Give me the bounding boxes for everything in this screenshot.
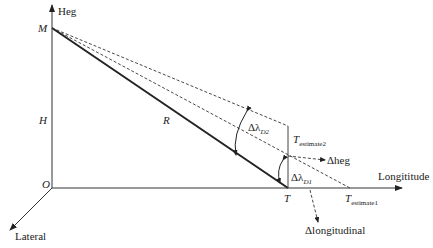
t-estimate1-label: Testimate1 bbox=[345, 192, 378, 207]
lateral-axis-label: Lateral bbox=[15, 230, 46, 242]
vertical-axis-label: Heg bbox=[58, 5, 77, 17]
angle-arc-d2 bbox=[235, 111, 247, 155]
point-M-label: M bbox=[37, 22, 48, 34]
point-H-label: H bbox=[38, 114, 48, 126]
t-estimate2-label: Testimate2 bbox=[293, 133, 326, 148]
angle-d2-label: ΔλD2 bbox=[248, 121, 269, 136]
line-R bbox=[52, 28, 288, 188]
angle-d1-label: ΔλD1 bbox=[291, 171, 312, 186]
angle-arc-d1 bbox=[279, 160, 283, 183]
segment-R-label: R bbox=[162, 114, 170, 126]
dashed-line-estimate2 bbox=[52, 28, 288, 126]
delta-heg-arrow bbox=[288, 156, 325, 160]
horizontal-axis-label: Longititude bbox=[378, 170, 429, 182]
lateral-axis bbox=[10, 188, 52, 230]
delta-heg-label: Δheg bbox=[327, 154, 350, 166]
point-T-label: T bbox=[284, 192, 291, 204]
dashed-line-heg bbox=[52, 28, 350, 188]
delta-longitudinal-arrow bbox=[310, 190, 318, 222]
geometry-diagram: Heg Longititude Lateral M H O T R Testim… bbox=[0, 0, 433, 248]
point-O-label: O bbox=[42, 178, 50, 190]
delta-longitudinal-label: Δlongitudinal bbox=[305, 224, 365, 236]
